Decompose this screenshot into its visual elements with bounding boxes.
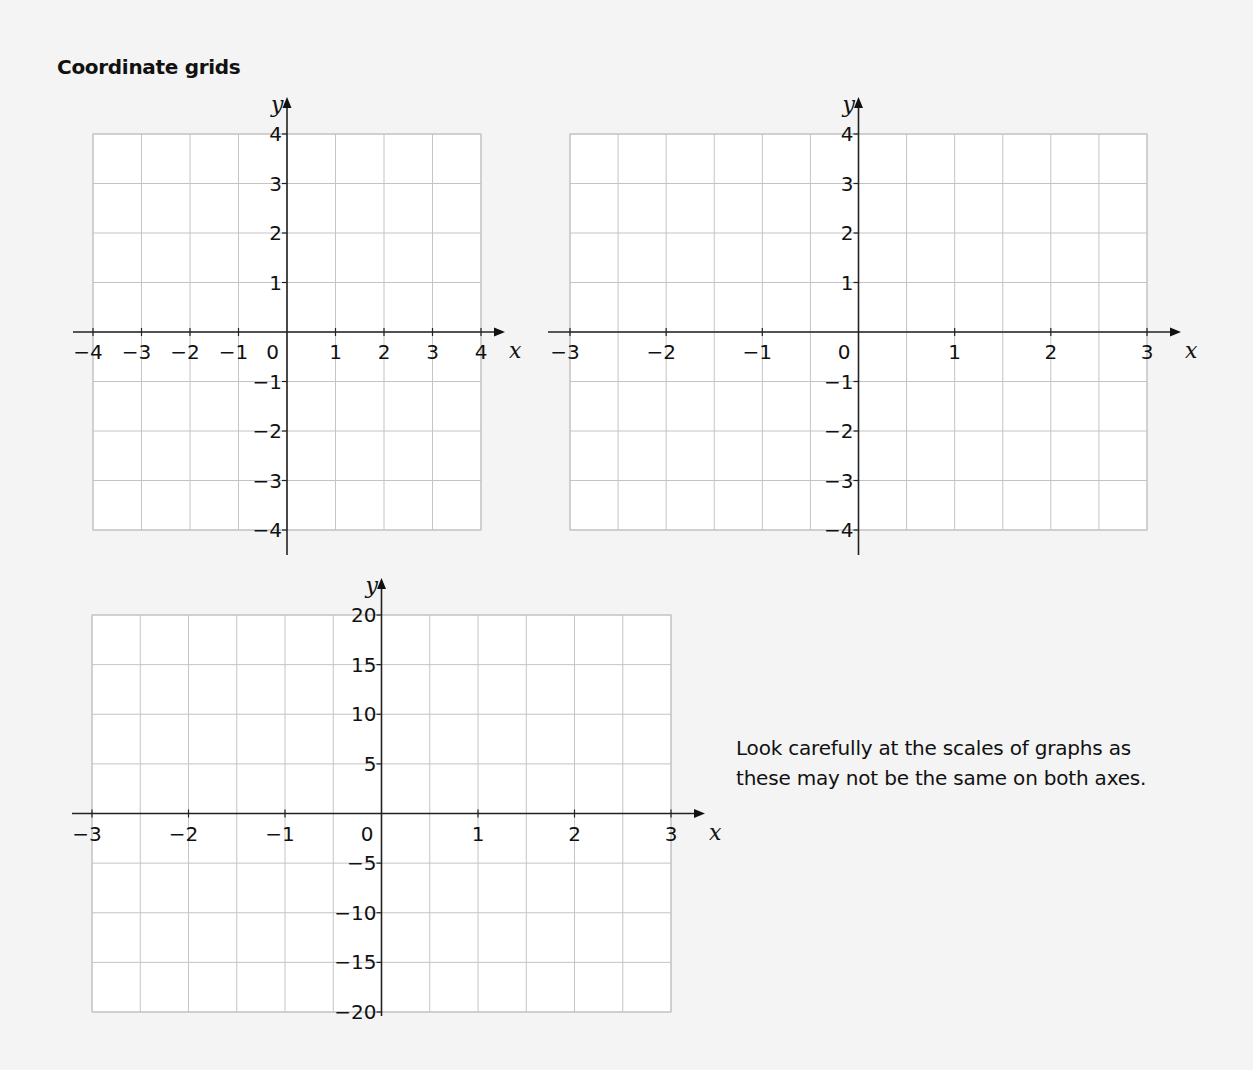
y-tick-label: 15	[351, 653, 376, 677]
y-tick-label: 20	[351, 603, 376, 627]
y-axis-arrow-icon	[377, 578, 386, 589]
y-tick-label: −20	[334, 1000, 376, 1024]
y-axis-label: y	[365, 573, 379, 598]
x-axis-label: x	[709, 820, 722, 845]
x-tick-label: 0	[361, 822, 374, 846]
x-axis-arrow-icon	[694, 809, 705, 818]
y-tick-label: 5	[364, 752, 377, 776]
y-tick-label: −15	[334, 950, 376, 974]
y-tick-label: 10	[351, 702, 376, 726]
y-tick-label: −10	[334, 901, 376, 925]
x-tick-label: 1	[472, 822, 485, 846]
x-tick-label: 2	[568, 822, 581, 846]
scale-note: Look carefully at the scales of graphs a…	[736, 733, 1156, 793]
x-tick-label: −3	[72, 822, 101, 846]
x-tick-label: −1	[265, 822, 294, 846]
x-tick-label: −2	[169, 822, 198, 846]
y-tick-label: −5	[347, 851, 376, 875]
coordinate-grid-3: xy−3−2−10123−20−15−10−55101520	[0, 0, 1253, 1070]
x-tick-label: 3	[665, 822, 678, 846]
